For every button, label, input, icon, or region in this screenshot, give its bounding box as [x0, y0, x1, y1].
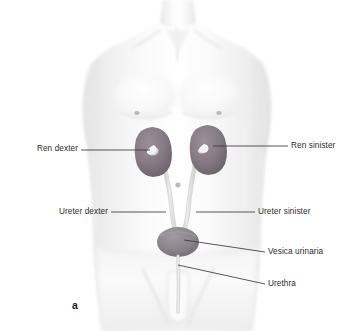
nipple-right [134, 111, 139, 115]
label-ren-sinister: Ren sinister [291, 141, 335, 151]
label-ren-dexter: Ren dexter [37, 144, 78, 154]
nipple-left [216, 111, 221, 115]
figure-caption: a [72, 299, 78, 311]
label-vesica-urinaria: Vesica urinaria [268, 247, 323, 257]
ren-dexter-organ [135, 127, 172, 177]
ren-sinister-organ [190, 125, 227, 175]
anatomy-illustration [0, 0, 353, 331]
navel [175, 183, 180, 188]
label-ureter-dexter: Ureter dexter [59, 207, 108, 217]
label-ureter-sinister: Ureter sinister [258, 207, 310, 217]
label-urethra: Urethra [268, 279, 296, 289]
figure-canvas: Ren dexter Ren sinister Ureter dexter Ur… [0, 0, 353, 331]
